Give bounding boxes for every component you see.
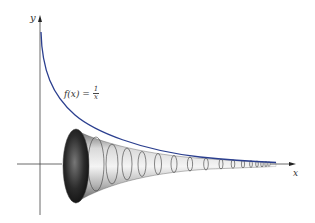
fraction-denominator: x: [94, 94, 98, 101]
fraction: 1 x: [93, 86, 99, 101]
horn-mouth: [63, 129, 89, 203]
y-axis-label: y: [30, 12, 36, 23]
function-lhs: f(x) =: [64, 89, 90, 99]
horn-diagram: [0, 0, 315, 223]
x-axis-label: x: [293, 168, 298, 178]
horn-surface: [63, 129, 285, 203]
function-label: f(x) = 1 x: [64, 86, 99, 101]
